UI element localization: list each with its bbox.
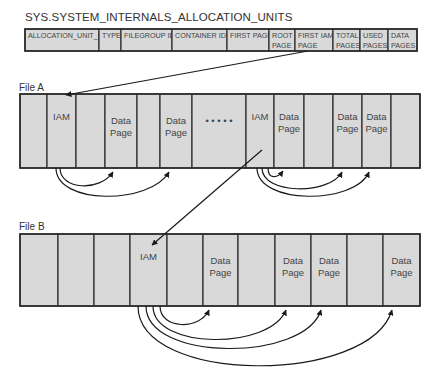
page-label: IAM [252,111,269,122]
file-b-page [347,234,383,306]
table-column-label: DATA [391,31,409,40]
file-a-data-page: DataPage [160,94,192,168]
file-a-page [76,94,105,168]
file-b-page [58,234,94,306]
page-label: Page [282,267,304,278]
iam-to-data-arrow [146,306,321,349]
table-column-header: TOTALPAGES [333,29,360,51]
table-column-header: FIRST PAGE [227,29,272,51]
table-column-label: PAGES [336,41,360,50]
table-column-label: TOTAL [336,31,359,40]
file-a-ellipsis-cell: • • • • • [192,94,246,168]
table-column-header: DATAPAGES [388,29,417,51]
file-a-data-page: DataPage [333,94,362,168]
file-b-page [94,234,130,306]
page-label: Data [111,115,132,126]
file-b-pages: IAMDataPageDataPageDataPageDataPage [20,234,420,306]
file-a-pages: IAMDataPageDataPage• • • • •IAMDataPageD… [20,94,420,168]
page-label: • • • • • [205,115,232,126]
file-b-page [167,234,203,306]
table-column-label: ROOT [272,31,293,40]
page-label: Page [209,267,231,278]
table-column-header: ROOTPAGE [269,29,295,51]
first-iam-pointer-arrow [66,51,308,95]
page-label: IAM [140,251,157,262]
page-label: Data [391,255,412,266]
table-column-label: PAGE [298,41,318,50]
table-column-label: ALLOCATION_UNIT_ID [28,31,105,40]
iam-to-data-arrow [268,168,283,177]
file-a-data-page: DataPage [274,94,304,168]
file-a-data-page: DataPage [105,94,137,168]
allocation-units-table: ALLOCATION_UNIT_IDTYPEFILEGROUP IDCONTAI… [25,29,417,51]
file-b-data-page: DataPage [203,234,238,306]
file-a-page [391,94,420,168]
file-b-data-page: DataPage [311,234,347,306]
file-b-data-page: DataPage [275,234,311,306]
page-label: Data [283,255,304,266]
page-label: Data [337,111,358,122]
page-label: Data [319,255,340,266]
page-label: Page [110,127,132,138]
iam-diagram: ALLOCATION_UNIT_IDTYPEFILEGROUP IDCONTAI… [0,0,440,391]
table-column-label: PAGES [363,41,387,50]
table-column-label: TYPE [102,31,121,40]
file-b-data-page: DataPage [383,234,420,306]
table-column-header: ALLOCATION_UNIT_ID [25,29,105,51]
table-column-header: CONTAINER ID [172,29,227,51]
page-label: Page [278,123,300,134]
file-a-iam-page: IAM [246,94,274,168]
file-a-page [137,94,160,168]
page-label: Page [365,123,387,134]
table-column-header: USEDPAGES [360,29,388,51]
iam-to-data-arrow [160,306,209,325]
page-label: Page [336,123,358,134]
iam-to-data-arrow [262,168,342,189]
table-column-header: TYPE [99,29,121,51]
table-column-label: USED [363,31,383,40]
page-label: Data [166,115,187,126]
file-a-data-page: DataPage [362,94,391,168]
table-column-label: FILEGROUP ID [124,31,175,40]
file-b-page [238,234,275,306]
page-label: Page [390,267,412,278]
page-label: Data [366,111,387,122]
iam-to-data-arrow [138,306,392,366]
table-column-label: PAGE [272,41,292,50]
table-column-label: FIRST IAM [298,31,333,40]
iam-to-data-arrow [60,168,113,186]
table-column-header: FILEGROUP ID [121,29,175,51]
file-a-iam-page: IAM [47,94,76,168]
table-column-label: FIRST PAGE [230,31,272,40]
table-column-label: PAGES [391,41,415,50]
table-column-header: FIRST IAMPAGE [295,29,333,51]
page-label: Data [210,255,231,266]
page-label: Page [165,127,187,138]
page-label: Data [279,111,300,122]
iam-to-data-arrow [257,168,369,196]
page-label: Page [318,267,340,278]
file-b-page [20,234,58,306]
page-label: IAM [53,111,70,122]
file-a-page [20,94,47,168]
file-b-iam-page: IAM [130,234,167,306]
table-column-label: CONTAINER ID [175,31,226,40]
file-a-page [304,94,333,168]
